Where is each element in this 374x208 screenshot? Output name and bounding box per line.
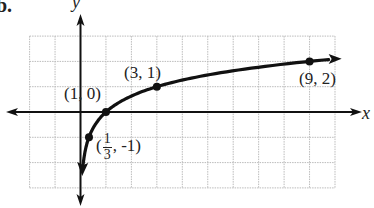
data-point (306, 57, 314, 65)
paren-open: ( (96, 136, 102, 155)
data-point (153, 83, 161, 91)
fraction-numerator: 1 (103, 132, 112, 148)
plot-area (0, 0, 374, 208)
point-label-9-2: (9, 2) (299, 70, 336, 87)
fraction-denominator: 3 (104, 148, 111, 163)
point-label-3-1: (3, 1) (124, 64, 161, 81)
graph-figure: b. y x (1, 0) (3, 1) (9, 2) (13, -1) (0, 0, 374, 208)
x-axis-label: x (362, 104, 370, 122)
paren-close: , -1) (113, 136, 141, 155)
axes (6, 14, 362, 206)
point-label-1-0: (1, 0) (64, 85, 101, 102)
y-axis-label: y (72, 0, 80, 11)
data-points (85, 57, 314, 141)
fraction: 13 (103, 132, 112, 162)
point-label-third-neg1: (13, -1) (96, 132, 141, 162)
data-point (85, 133, 93, 141)
problem-label: b. (0, 0, 12, 17)
data-point (102, 108, 110, 116)
